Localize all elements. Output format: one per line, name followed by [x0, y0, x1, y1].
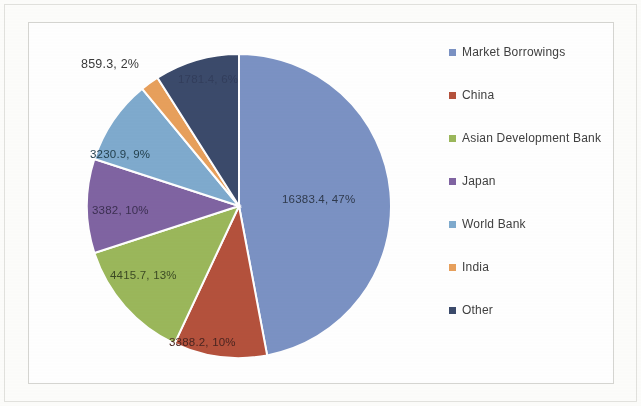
scanned-page: 16383.4, 47% 3388.2, 10% 4415.7, 13% 338…: [0, 0, 641, 406]
pie-svg: [74, 41, 404, 371]
pie-slice-market-borrowings[interactable]: [239, 54, 391, 355]
legend-swatch-icon: [449, 49, 456, 56]
legend-label: Market Borrowings: [462, 45, 565, 60]
legend-swatch-icon: [449, 178, 456, 185]
legend-label: India: [462, 260, 489, 275]
legend-item-world-bank[interactable]: World Bank: [449, 217, 615, 232]
legend-item-market-borrowings[interactable]: Market Borrowings: [449, 45, 615, 60]
legend-label: Asian Development Bank: [462, 131, 601, 146]
legend-item-india[interactable]: India: [449, 260, 615, 275]
legend-label: Other: [462, 303, 493, 318]
pie-chart[interactable]: 16383.4, 47% 3388.2, 10% 4415.7, 13% 338…: [74, 41, 404, 371]
legend-swatch-icon: [449, 221, 456, 228]
chart-legend: Market Borrowings China Asian Developmen…: [449, 45, 615, 346]
legend-label: Japan: [462, 174, 496, 189]
legend-label: China: [462, 88, 494, 103]
legend-item-asian-development-bank[interactable]: Asian Development Bank: [449, 131, 615, 146]
legend-item-other[interactable]: Other: [449, 303, 615, 318]
legend-swatch-icon: [449, 92, 456, 99]
legend-swatch-icon: [449, 307, 456, 314]
legend-item-china[interactable]: China: [449, 88, 615, 103]
legend-label: World Bank: [462, 217, 526, 232]
legend-swatch-icon: [449, 264, 456, 271]
chart-frame: 16383.4, 47% 3388.2, 10% 4415.7, 13% 338…: [28, 22, 614, 384]
legend-item-japan[interactable]: Japan: [449, 174, 615, 189]
pie-plot-area: 16383.4, 47% 3388.2, 10% 4415.7, 13% 338…: [29, 23, 449, 385]
legend-swatch-icon: [449, 135, 456, 142]
